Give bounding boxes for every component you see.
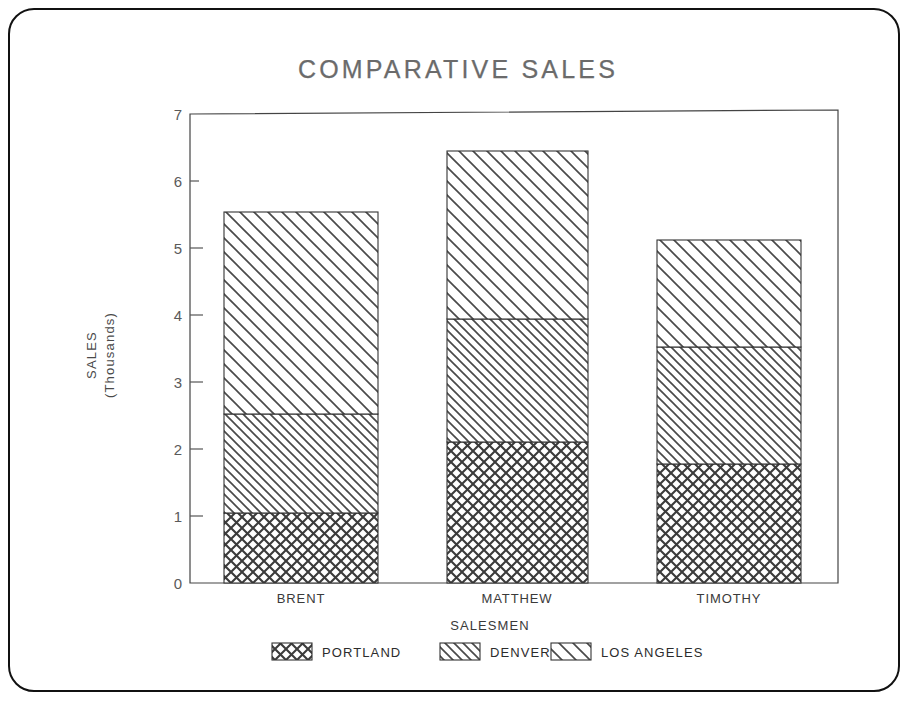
legend-swatch-denver xyxy=(440,643,480,660)
y-axis: 0 1 2 3 4 5 6 xyxy=(174,106,203,592)
y-tick-group-1: 1 xyxy=(174,508,203,525)
bar-segment-los-angeles xyxy=(224,212,378,414)
y-tick-group-4: 4 xyxy=(174,307,203,324)
y-tick-label: 2 xyxy=(174,441,182,458)
bar-group-matthew xyxy=(447,151,588,583)
bar-segment-portland xyxy=(447,442,588,583)
y-axis-title-line1: SALES xyxy=(84,331,99,379)
y-tick-group-7: 7 xyxy=(174,106,182,123)
legend-item-los-angeles[interactable]: LOS ANGELES xyxy=(551,643,703,660)
bar-segment-denver xyxy=(657,347,801,464)
y-tick-group-5: 5 xyxy=(174,240,203,257)
x-category-label-brent: BRENT xyxy=(277,591,326,606)
x-category-label-matthew: MATTHEW xyxy=(481,591,552,606)
legend: PORTLAND DENVER LOS ANGELES xyxy=(272,643,703,660)
chart-page: COMPARATIVE SALES 0 1 2 3 4 xyxy=(0,0,916,704)
y-tick-label: 4 xyxy=(174,307,182,324)
y-tick-label: 6 xyxy=(174,173,182,190)
legend-swatch-portland xyxy=(272,643,312,660)
y-tick-group-2: 2 xyxy=(174,441,203,458)
y-tick-group-3: 3 xyxy=(174,374,203,391)
y-tick-label: 0 xyxy=(174,575,182,592)
legend-label-denver: DENVER xyxy=(490,645,551,660)
chart-title: COMPARATIVE SALES xyxy=(298,55,618,83)
bar-segment-los-angeles xyxy=(447,151,588,319)
y-axis-title: SALES (Thousands) xyxy=(84,312,117,398)
bar-group-timothy xyxy=(657,240,801,583)
bar-segment-denver xyxy=(447,319,588,442)
y-tick-group-0: 0 xyxy=(174,575,182,592)
bar-group-brent xyxy=(224,212,378,583)
comparative-sales-chart: COMPARATIVE SALES 0 1 2 3 4 xyxy=(0,0,916,704)
bar-segment-denver xyxy=(224,414,378,513)
legend-swatch-los-angeles xyxy=(551,643,591,660)
legend-item-portland[interactable]: PORTLAND xyxy=(272,643,401,660)
x-category-label-timothy: TIMOTHY xyxy=(697,591,762,606)
y-tick-label: 1 xyxy=(174,508,182,525)
x-axis-title: SALESMEN xyxy=(450,618,530,633)
y-axis-title-line2: (Thousands) xyxy=(102,312,117,398)
y-tick-label: 7 xyxy=(174,106,182,123)
legend-item-denver[interactable]: DENVER xyxy=(440,643,551,660)
y-tick-group-6: 6 xyxy=(174,173,199,190)
legend-label-portland: PORTLAND xyxy=(322,645,401,660)
y-tick-label: 3 xyxy=(174,374,182,391)
legend-label-los-angeles: LOS ANGELES xyxy=(601,645,703,660)
bar-segment-portland xyxy=(657,464,801,583)
bar-segment-los-angeles xyxy=(657,240,801,347)
y-tick-label: 5 xyxy=(174,240,182,257)
bar-segment-portland xyxy=(224,513,378,583)
